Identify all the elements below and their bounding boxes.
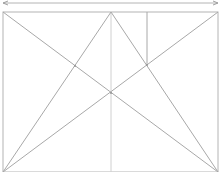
intersection-point-center xyxy=(110,92,112,94)
intersection-point-left xyxy=(74,65,76,67)
intersection-point-right xyxy=(146,64,148,66)
line-apex-to-bottom-right xyxy=(111,12,218,172)
line-apex-to-bottom-left xyxy=(3,12,111,172)
geometry-diagram xyxy=(0,0,221,172)
dimension-line xyxy=(3,1,218,5)
